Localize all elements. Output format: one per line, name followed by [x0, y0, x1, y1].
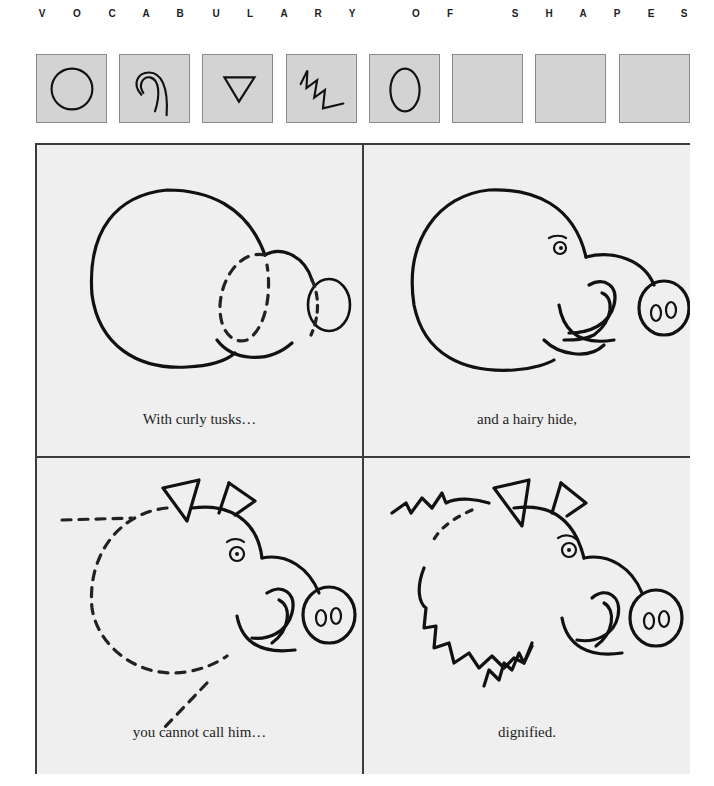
header-letter: C [108, 8, 115, 19]
header-letter: B [176, 8, 183, 19]
header-letter: A [280, 8, 287, 19]
header-letter: S [681, 8, 688, 19]
panel-caption: dignified. [364, 724, 690, 741]
panel-step-2: and a hairy hide, [364, 145, 690, 456]
header-letter: U [212, 8, 219, 19]
header-letter: E [648, 8, 655, 19]
shape-box-empty-1 [452, 54, 523, 123]
triangle-shape-icon [203, 55, 272, 122]
shape-box-oval [369, 54, 440, 123]
header-letter: V [39, 8, 46, 19]
boar-drawing-step-2 [364, 145, 690, 456]
panel-caption: you cannot call him… [37, 724, 362, 741]
vertical-divider [362, 145, 364, 772]
header-letter: L [247, 8, 253, 19]
panel-step-4: dignified. [364, 458, 690, 774]
header-letter: P [614, 8, 621, 19]
header-letter: O [73, 8, 81, 19]
header-letter: A [579, 8, 586, 19]
shape-box-empty-3 [619, 54, 690, 123]
spiral-shape-icon [120, 55, 189, 122]
zigzag-shape-icon [287, 55, 356, 122]
shape-box-triangle [202, 54, 273, 123]
header-letter: F [447, 8, 453, 19]
header-letter: H [545, 8, 552, 19]
panel-caption: With curly tusks… [37, 411, 362, 428]
shape-box-empty-2 [535, 54, 606, 123]
horizontal-divider [37, 456, 688, 458]
boar-drawing-step-1 [37, 145, 362, 456]
header-letter: O [412, 8, 420, 19]
shape-box-zigzag [286, 54, 357, 123]
oval-shape-icon [370, 55, 439, 122]
header-letter: R [314, 8, 321, 19]
header-letter: A [142, 8, 149, 19]
header-letter: S [512, 8, 519, 19]
circle-shape-icon [37, 55, 106, 122]
shape-box-spiral [119, 54, 190, 123]
shape-box-circle [36, 54, 107, 123]
drawing-steps-grid: With curly tusks… and a hairy hide, [35, 143, 690, 774]
header-letter: Y [349, 8, 356, 19]
panel-step-3: you cannot call him… [37, 458, 362, 774]
panel-caption: and a hairy hide, [364, 411, 690, 428]
panel-step-1: With curly tusks… [37, 145, 362, 456]
